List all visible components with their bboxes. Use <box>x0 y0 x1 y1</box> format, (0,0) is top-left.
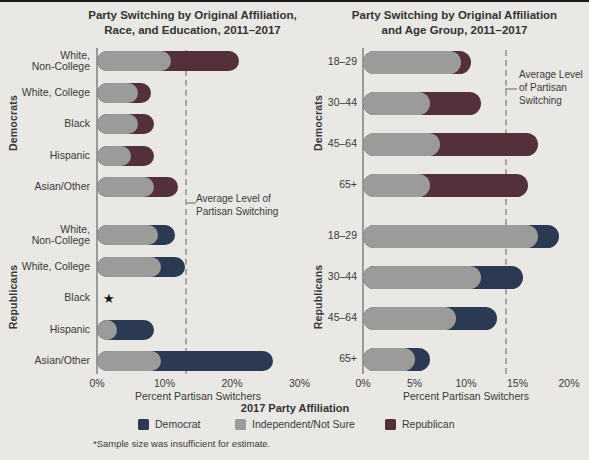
row-label-line: Black <box>12 292 90 304</box>
average-line-label-line: Average Level <box>519 68 583 81</box>
bar-segment-independent <box>97 320 117 340</box>
row-label: Black <box>12 292 90 304</box>
row-label-line: 30–44 <box>287 271 357 283</box>
x-tick-label: 30% <box>289 377 310 389</box>
row-label: 18–29 <box>287 56 357 68</box>
row-label-line: White, College <box>12 87 90 99</box>
x-axis-title: Percent Partisan Switchers <box>135 390 261 402</box>
x-tick-label: 0% <box>355 377 370 389</box>
row-label: 65+ <box>287 179 357 191</box>
average-line-label: Average Levelof PartisanSwitching <box>519 68 583 107</box>
page-top-rule <box>0 0 589 2</box>
average-switching-line <box>505 50 507 374</box>
chart-title-line: Party Switching by Original Affiliation, <box>40 8 345 23</box>
insufficient-sample-star: ★ <box>103 292 115 305</box>
group-label-democrats: Democrats <box>312 63 324 183</box>
row-label: White, College <box>12 87 90 99</box>
average-switching-line <box>185 50 187 374</box>
bar-segment-independent <box>363 51 461 74</box>
average-line-label-line: Average Level of <box>196 192 278 205</box>
row-label-line: Asian/Other <box>12 355 90 367</box>
book-page: Party Switching by Original Affiliation,… <box>0 0 589 460</box>
row-label: 45–64 <box>287 138 357 150</box>
row-label-line: 65+ <box>287 353 357 365</box>
row-label-line: 65+ <box>287 179 357 191</box>
chart-title: Party Switching by Original Affiliation,… <box>40 8 345 38</box>
row-label: 18–29 <box>287 230 357 242</box>
average-line-connector <box>505 88 517 90</box>
x-tick-label: 10% <box>455 377 476 389</box>
chart-title-line: Race, and Education, 2011–2017 <box>40 23 345 38</box>
bar-segment-independent <box>363 225 538 248</box>
row-label-line: Hispanic <box>12 150 90 162</box>
bar-segment-independent <box>363 174 430 197</box>
row-label: Hispanic <box>12 324 90 336</box>
row-label-line: 45–64 <box>287 138 357 150</box>
x-tick-label: 5% <box>407 377 422 389</box>
bar-segment-independent <box>97 177 154 197</box>
row-label: Asian/Other <box>12 181 90 193</box>
row-label: 65+ <box>287 353 357 365</box>
row-label-line: Asian/Other <box>12 181 90 193</box>
legend-item-democrat: Democrat <box>138 418 201 430</box>
row-label: White,Non-College <box>12 50 90 73</box>
row-label-line: Non-College <box>12 235 90 247</box>
row-label: Black <box>12 118 90 130</box>
legend-item-label: Democrat <box>155 418 201 430</box>
x-tick-label: 10% <box>154 377 175 389</box>
row-label-line: 45–64 <box>287 312 357 324</box>
x-tick-label: 15% <box>507 377 528 389</box>
bar-segment-independent <box>363 348 415 371</box>
footnote: *Sample size was insufficient for estima… <box>93 438 270 449</box>
bar-segment-independent <box>97 146 131 166</box>
row-label-line: 18–29 <box>287 56 357 68</box>
bar-segment-independent <box>363 92 430 115</box>
chart-title: Party Switching by Original Affiliationa… <box>327 8 582 38</box>
row-label: Asian/Other <box>12 355 90 367</box>
bar-segment-independent <box>97 225 158 245</box>
chart-title-line: and Age Group, 2011–2017 <box>327 23 582 38</box>
row-label: 30–44 <box>287 97 357 109</box>
average-line-label-line: Switching <box>519 94 583 107</box>
row-label: White,Non-College <box>12 224 90 247</box>
average-line-label: Average Level ofPartisan Switching <box>196 192 278 218</box>
bar-segment-independent <box>363 307 456 330</box>
x-axis-title: Percent Partisan Switchers <box>403 390 529 402</box>
bar-segment-independent <box>97 83 138 103</box>
legend-item-label: Republican <box>402 418 455 430</box>
bar-segment-independent <box>363 133 440 156</box>
legend-title: 2017 Party Affiliation <box>155 402 435 414</box>
bar-segment-independent <box>97 257 161 277</box>
legend-item-republican: Republican <box>385 418 455 430</box>
row-label-line: Black <box>12 118 90 130</box>
bar-segment-independent <box>97 51 171 71</box>
row-label-line: 18–29 <box>287 230 357 242</box>
independent-swatch-icon <box>235 419 246 430</box>
bar-segment-independent <box>97 114 138 134</box>
group-label-republicans: Republicans <box>312 237 324 357</box>
x-tick-label: 0% <box>89 377 104 389</box>
row-label: Hispanic <box>12 150 90 162</box>
chart-title-line: Party Switching by Original Affiliation <box>327 8 582 23</box>
row-label: 30–44 <box>287 271 357 283</box>
democrat-swatch-icon <box>138 419 149 430</box>
average-line-connector <box>185 202 196 204</box>
bar-segment-independent <box>97 351 161 371</box>
row-label-line: White, College <box>12 261 90 273</box>
row-label: White, College <box>12 261 90 273</box>
legend-item-label: Independent/Not Sure <box>252 418 355 430</box>
average-line-label-line: Partisan Switching <box>196 205 278 218</box>
row-label: 45–64 <box>287 312 357 324</box>
average-line-label-line: of Partisan <box>519 81 583 94</box>
x-tick-label: 20% <box>221 377 242 389</box>
row-label-line: Non-College <box>12 61 90 73</box>
republican-swatch-icon <box>385 419 396 430</box>
row-label-line: Hispanic <box>12 324 90 336</box>
bar-segment-independent <box>363 266 481 289</box>
x-tick-label: 20% <box>558 377 579 389</box>
row-label-line: 30–44 <box>287 97 357 109</box>
legend-item-independent: Independent/Not Sure <box>235 418 355 430</box>
